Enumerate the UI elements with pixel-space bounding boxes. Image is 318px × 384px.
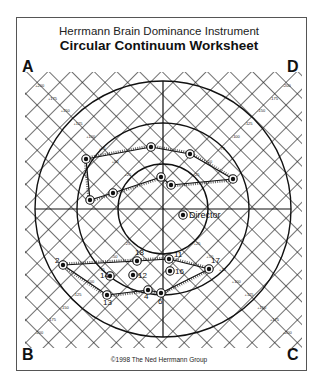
circular-continuum-diagram: +200+175+150+125+100+75+50+25-200-175-15… xyxy=(0,0,318,384)
tick-label: -150 xyxy=(257,108,266,113)
node-label: 17 xyxy=(211,256,220,265)
node-label: 4 xyxy=(144,292,149,301)
quadrant-label-a: A xyxy=(22,58,34,76)
tick-label: +75 xyxy=(219,267,227,272)
tick-label: -200 xyxy=(283,83,292,88)
plot-node xyxy=(86,196,94,204)
node-label: 11 xyxy=(174,250,183,259)
plot-node xyxy=(129,271,137,279)
tick-label: +150 xyxy=(61,108,71,113)
node-label: 14 xyxy=(100,271,109,280)
director-label: Director xyxy=(189,210,221,220)
plot-node xyxy=(186,150,194,158)
tick-label: -50 xyxy=(112,254,119,259)
plot-node xyxy=(157,289,165,297)
plot-node xyxy=(133,257,141,265)
tick-label: +25 xyxy=(124,172,132,177)
node-label: 2 xyxy=(55,256,60,265)
tick-label: -150 xyxy=(61,305,70,310)
tick-label: +200 xyxy=(35,83,45,88)
copyright-notice: ©1998 The Ned Herrmann Group xyxy=(0,356,318,363)
tick-label: -200 xyxy=(35,330,44,335)
plot-node xyxy=(165,255,173,263)
tick-label: +150 xyxy=(257,305,267,310)
node-label: 6 xyxy=(158,297,163,306)
tick-label: +100 xyxy=(232,279,242,284)
tick-label: +175 xyxy=(270,317,280,322)
plot-node xyxy=(166,267,174,275)
tick-label: +50 xyxy=(112,159,120,164)
plot-node xyxy=(167,181,175,189)
tick-label: +125 xyxy=(245,292,255,297)
tick-label: +75 xyxy=(99,146,107,151)
tick-label: +125 xyxy=(73,121,83,126)
tick-label: -125 xyxy=(245,121,254,126)
tick-label: +200 xyxy=(283,330,293,335)
tick-label: -125 xyxy=(73,292,82,297)
node-label: 12 xyxy=(138,271,147,280)
node-label: 16 xyxy=(175,267,184,276)
tick-label: -175 xyxy=(48,317,57,322)
worksheet-title: Circular Continuum Worksheet xyxy=(0,38,318,53)
tick-label: +175 xyxy=(48,96,58,101)
instrument-title: Herrmann Brain Dominance Instrument xyxy=(0,25,318,37)
plot-node xyxy=(109,189,117,197)
tick-label: -100 xyxy=(232,134,241,139)
quadrant-label-d: D xyxy=(287,58,299,76)
tick-label: -175 xyxy=(270,96,279,101)
tick-label: +25 xyxy=(194,241,202,246)
tick-label: -75 xyxy=(219,146,226,151)
tick-label: -25 xyxy=(194,172,201,177)
plot-node xyxy=(205,265,213,273)
tick-label: +100 xyxy=(86,134,96,139)
tick-label: -50 xyxy=(206,159,213,164)
node-label: 18 xyxy=(135,248,144,257)
plot-node xyxy=(82,155,90,163)
director-point: Director xyxy=(179,210,221,220)
plot-node xyxy=(59,261,67,269)
tick-label: -25 xyxy=(124,241,131,246)
plot-node xyxy=(157,173,165,181)
plot-node xyxy=(179,211,187,219)
node-label: 13 xyxy=(103,298,112,307)
plot-node xyxy=(229,175,237,183)
plot-node xyxy=(147,143,155,151)
